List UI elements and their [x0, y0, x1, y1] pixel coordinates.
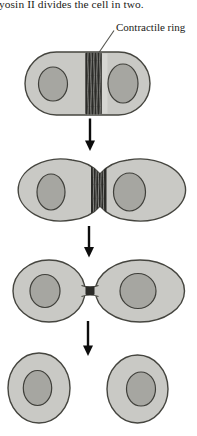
stage-2-left-nucleus [37, 174, 65, 210]
stage-2-right-nucleus [114, 173, 146, 211]
stage-3-left-nucleus [30, 275, 60, 308]
stage-1-right-nucleus [108, 64, 138, 103]
cytokinesis-diagram [0, 0, 197, 436]
stage-3-cell [13, 260, 185, 322]
stage-1-cell [25, 52, 150, 115]
stage-3-right-nucleus [120, 274, 156, 309]
stage-3-midbody-ring [86, 287, 95, 296]
stage-4-right-nucleus [127, 372, 156, 406]
stage-4-cells [8, 353, 168, 423]
stage-4-left-nucleus [23, 371, 51, 406]
arrow-down-1 [85, 119, 95, 152]
stage-1-left-nucleus [39, 67, 68, 101]
stage-2-cell [18, 158, 185, 222]
stage-1-ring-highlight [102, 54, 108, 114]
stage-arrows [83, 119, 95, 357]
cytokinesis-figure: yosin II divides the cell in two. Contra… [0, 0, 197, 436]
arrow-down-3 [83, 321, 93, 356]
arrow-down-2 [84, 226, 94, 258]
